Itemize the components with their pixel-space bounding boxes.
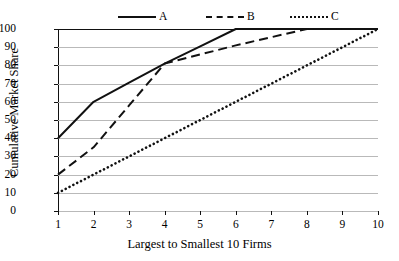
x-tick-mark: [307, 211, 308, 215]
cumulative-market-share-chart: A B C 0102030405060708090100 12345678910…: [0, 0, 399, 261]
series-lines: [58, 29, 378, 211]
x-tick-mark: [58, 211, 59, 215]
x-tick-mark: [200, 211, 201, 215]
series-line-b: [58, 29, 378, 175]
x-tick-label: 9: [327, 219, 357, 231]
series-line-c: [58, 29, 378, 193]
plot-area: [58, 29, 378, 211]
y-axis-title: Cumulative Market Share: [8, 13, 21, 213]
x-tick-mark: [271, 211, 272, 215]
legend-label-b: B: [247, 11, 255, 23]
legend-entry-a: A: [118, 9, 167, 25]
legend-label-a: A: [159, 11, 167, 23]
x-tick-label: 2: [79, 219, 109, 231]
x-tick-mark: [94, 211, 95, 215]
legend-swatch-solid-line-icon: [118, 12, 156, 22]
x-tick-label: 5: [185, 219, 215, 231]
x-tick-label: 8: [292, 219, 322, 231]
legend-entry-c: C: [290, 9, 339, 25]
x-axis-title: Largest to Smallest 10 Firms: [0, 238, 399, 251]
x-tick-label: 1: [43, 219, 73, 231]
x-tick-label: 10: [363, 219, 393, 231]
chart-legend: A B C: [118, 9, 343, 25]
x-tick-mark: [342, 211, 343, 215]
x-tick-mark: [165, 211, 166, 215]
legend-entry-b: B: [206, 9, 255, 25]
x-tick-label: 3: [114, 219, 144, 231]
x-tick-label: 7: [256, 219, 286, 231]
x-tick-mark: [129, 211, 130, 215]
legend-label-c: C: [331, 11, 339, 23]
x-tick-label: 4: [150, 219, 180, 231]
x-tick-mark: [236, 211, 237, 215]
legend-swatch-dashed-line-icon: [206, 12, 244, 22]
series-line-a: [58, 29, 378, 138]
legend-swatch-dotted-line-icon: [290, 12, 328, 22]
x-tick-mark: [378, 211, 379, 215]
gridline: [58, 211, 378, 212]
x-tick-label: 6: [221, 219, 251, 231]
